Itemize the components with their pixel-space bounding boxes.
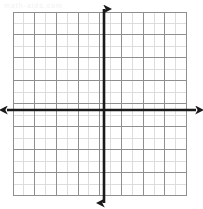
coordinate-grid-figure: math-aids.com [0,0,203,209]
axes-group [7,9,196,203]
grid-major-lines [13,12,187,196]
coordinate-plane-svg [0,0,203,209]
